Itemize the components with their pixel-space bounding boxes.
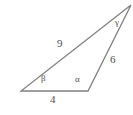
angle-label-alpha: α [75, 75, 80, 84]
triangle-figure: 9 6 4 β α γ [0, 0, 133, 115]
side-label-9: 9 [57, 38, 63, 49]
angle-label-gamma: γ [115, 18, 119, 27]
side-label-4: 4 [50, 94, 56, 105]
angle-label-beta: β [41, 74, 46, 83]
side-label-6: 6 [110, 54, 116, 65]
